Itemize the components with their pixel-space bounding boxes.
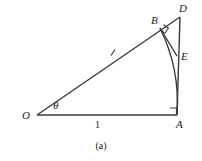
vertex-label-E: E	[181, 51, 188, 62]
vertex-label-A: A	[176, 119, 183, 130]
angle-label-theta: θ	[53, 100, 58, 111]
vertex-label-D: D	[179, 3, 187, 14]
ray-segment-OD	[37, 17, 180, 115]
right-angle-marker-at-A	[170, 108, 177, 115]
geometry-canvas	[0, 0, 202, 161]
geometry-figure: O A D B E θ 1 (a)	[0, 0, 202, 161]
segment-BE	[160, 28, 177, 56]
length-label-OA: 1	[95, 120, 100, 130]
vertex-label-B: B	[151, 15, 158, 26]
vertex-label-O: O	[22, 110, 30, 121]
tick-mark-on-OB	[111, 50, 115, 56]
figure-caption: (a)	[0, 141, 202, 151]
